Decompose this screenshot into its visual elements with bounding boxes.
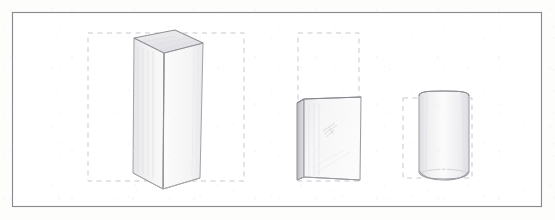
box-left-side-face <box>297 99 304 180</box>
sketch-canvas <box>0 0 555 220</box>
sketch-page: Pencil sketch study of three geometric s… <box>0 0 555 220</box>
